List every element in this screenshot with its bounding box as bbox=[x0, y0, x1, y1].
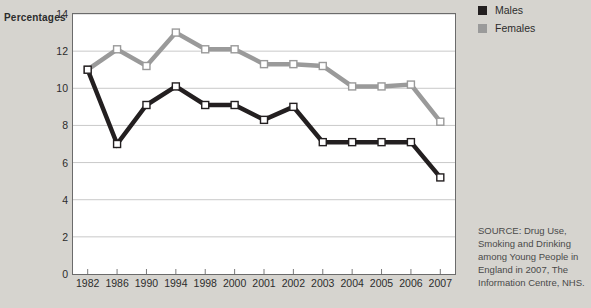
datapoint-males-2004 bbox=[349, 139, 356, 146]
y-axis-tick-12: 12 bbox=[44, 45, 68, 57]
x-axis-tick-labels: 1982198619901994199820002001200220032004… bbox=[72, 277, 456, 301]
datapoint-males-1986 bbox=[114, 141, 121, 148]
datapoint-females-2006 bbox=[407, 81, 414, 88]
source-note: SOURCE: Drug Use, Smoking and Drinking a… bbox=[478, 224, 590, 289]
series-line-females bbox=[88, 33, 441, 122]
x-axis-tick-2006: 2006 bbox=[399, 277, 422, 289]
y-axis-tick-0: 0 bbox=[44, 268, 68, 280]
datapoint-males-2005 bbox=[378, 139, 385, 146]
datapoint-males-1990 bbox=[143, 102, 150, 109]
datapoint-females-1994 bbox=[172, 29, 179, 36]
datapoint-males-2003 bbox=[319, 139, 326, 146]
x-axis-tick-1990: 1990 bbox=[135, 277, 158, 289]
datapoint-females-2001 bbox=[261, 61, 268, 68]
datapoint-males-1994 bbox=[172, 83, 179, 90]
x-axis-tick-2004: 2004 bbox=[340, 277, 363, 289]
legend-item-males[interactable]: Males bbox=[478, 4, 586, 16]
x-axis-tick-1994: 1994 bbox=[164, 277, 187, 289]
datapoint-females-2004 bbox=[349, 83, 356, 90]
chart-legend: MalesFemales bbox=[478, 4, 586, 40]
legend-item-females[interactable]: Females bbox=[478, 22, 586, 34]
y-axis-tick-14: 14 bbox=[44, 8, 68, 20]
y-axis-tick-10: 10 bbox=[44, 82, 68, 94]
datapoint-males-2006 bbox=[407, 139, 414, 146]
plot-area bbox=[72, 13, 456, 275]
x-axis-tick-1986: 1986 bbox=[105, 277, 128, 289]
x-axis-tick-2000: 2000 bbox=[223, 277, 246, 289]
datapoint-females-2005 bbox=[378, 83, 385, 90]
y-axis-tick-4: 4 bbox=[44, 194, 68, 206]
datapoint-males-2001 bbox=[261, 116, 268, 123]
datapoint-females-2007 bbox=[437, 118, 444, 125]
legend-label: Females bbox=[495, 22, 535, 34]
datapoint-males-2007 bbox=[437, 174, 444, 181]
legend-label: Males bbox=[495, 4, 523, 16]
y-axis-tick-2: 2 bbox=[44, 231, 68, 243]
datapoint-males-2000 bbox=[231, 102, 238, 109]
datapoint-females-1990 bbox=[143, 63, 150, 70]
legend-swatch-icon-females bbox=[478, 24, 487, 33]
datapoint-females-2002 bbox=[290, 61, 297, 68]
x-axis-tick-1998: 1998 bbox=[194, 277, 217, 289]
x-axis-tick-2007: 2007 bbox=[429, 277, 452, 289]
datapoint-females-1986 bbox=[114, 46, 121, 53]
y-axis-tick-6: 6 bbox=[44, 157, 68, 169]
datapoint-males-1998 bbox=[202, 102, 209, 109]
y-axis-tick-8: 8 bbox=[44, 119, 68, 131]
datapoint-females-1998 bbox=[202, 46, 209, 53]
datapoint-females-2003 bbox=[319, 63, 326, 70]
x-axis-tick-2001: 2001 bbox=[252, 277, 275, 289]
datapoint-males-2002 bbox=[290, 103, 297, 110]
x-axis-tick-2003: 2003 bbox=[311, 277, 334, 289]
x-axis-tick-1982: 1982 bbox=[76, 277, 99, 289]
x-axis-tick-2002: 2002 bbox=[282, 277, 305, 289]
y-axis-tick-labels: 02468101214 bbox=[40, 0, 68, 308]
legend-swatch-icon-males bbox=[478, 6, 487, 15]
chart-canvas bbox=[73, 14, 455, 274]
datapoint-males-1982 bbox=[84, 66, 91, 73]
datapoint-females-2000 bbox=[231, 46, 238, 53]
percentages-line-chart: Percentages 02468101214 1982198619901994… bbox=[0, 0, 591, 308]
x-axis-tick-2005: 2005 bbox=[370, 277, 393, 289]
